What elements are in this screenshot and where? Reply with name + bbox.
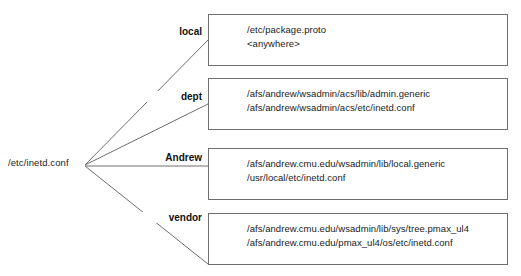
node-line: <anywhere> — [247, 37, 503, 51]
node-box-andrew-content: /afs/andrew.cmu.edu/wsadmin/lib/local.ge… — [247, 157, 503, 184]
node-box-local: /etc/package.proto <anywhere> — [208, 14, 508, 66]
branch-label-local: local — [135, 26, 205, 37]
node-line: /etc/package.proto — [247, 23, 503, 37]
node-box-dept: /afs/andrew/wsadmin/acs/lib/admin.generi… — [208, 78, 508, 130]
node-box-dept-content: /afs/andrew/wsadmin/acs/lib/admin.generi… — [247, 87, 503, 114]
root-node-label: /etc/inetd.conf — [8, 157, 69, 168]
node-line: /afs/andrew.cmu.edu/wsadmin/lib/local.ge… — [247, 157, 503, 171]
branch-label-vendor: vendor — [135, 212, 205, 223]
node-line: /afs/andrew/wsadmin/acs/etc/inetd.conf — [247, 101, 503, 115]
node-line: /usr/local/etc/inetd.conf — [247, 171, 503, 185]
node-box-vendor: /afs/andrew.cmu.edu/wsadmin/lib/sys/tree… — [208, 213, 508, 265]
node-box-vendor-content: /afs/andrew.cmu.edu/wsadmin/lib/sys/tree… — [247, 222, 503, 249]
branch-label-andrew: Andrew — [135, 152, 205, 163]
edge-local — [85, 40, 208, 165]
node-box-andrew: /afs/andrew.cmu.edu/wsadmin/lib/local.ge… — [208, 148, 508, 200]
node-box-local-content: /etc/package.proto <anywhere> — [247, 23, 503, 50]
node-line: /afs/andrew.cmu.edu/wsadmin/lib/sys/tree… — [247, 222, 503, 236]
inetd-conf-tree-diagram: /etc/inetd.conf local dept Andrew vendor… — [0, 0, 521, 276]
node-line: /afs/andrew.cmu.edu/pmax_ul4/os/etc/inet… — [247, 236, 503, 250]
branch-label-dept: dept — [135, 91, 205, 102]
node-line: /afs/andrew/wsadmin/acs/lib/admin.generi… — [247, 87, 503, 101]
